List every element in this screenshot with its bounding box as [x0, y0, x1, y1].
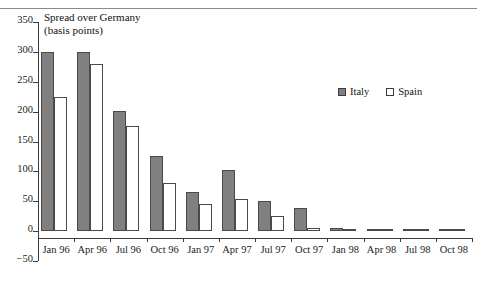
bar-spain-jan-98 [343, 229, 356, 231]
y-axis-tick-label: 250 [17, 74, 33, 85]
bar-italy-jan-96 [41, 52, 54, 231]
y-axis-tick: 250 [0, 82, 40, 83]
bar-group [400, 22, 436, 261]
legend-label-italy: Italy [350, 86, 369, 97]
y-axis-tick-mark [33, 261, 38, 262]
bar-italy-jan-97 [186, 192, 199, 231]
bar-italy-jul-98 [403, 229, 416, 231]
bar-italy-oct-97 [294, 208, 307, 231]
bar-spain-apr-97 [235, 199, 248, 231]
chart-page: Spread over Germany (basis points) 35030… [0, 0, 477, 282]
y-axis-tick-label: 200 [17, 104, 33, 115]
x-axis-tick-label: Jul 96 [110, 244, 146, 255]
bar-spain-jan-97 [199, 204, 212, 231]
top-divider [0, 8, 477, 9]
y-axis-tick-label: 300 [17, 44, 33, 55]
legend-swatch-italy-icon [338, 88, 346, 96]
x-axis-tick-mark [183, 238, 184, 242]
bar-spain-apr-98 [380, 229, 393, 231]
y-axis-tick: 300 [0, 52, 40, 53]
bar-italy-jan-98 [330, 228, 343, 231]
bar-group [255, 22, 291, 261]
plot-area [38, 22, 472, 261]
bar-group [436, 22, 472, 261]
bar-spain-jul-98 [416, 229, 429, 231]
y-axis-tick: 50 [0, 201, 40, 202]
x-axis-tick-mark [364, 238, 365, 242]
x-axis-tick-label: Apr 96 [74, 244, 110, 255]
bar-spain-apr-96 [90, 64, 103, 231]
y-axis-tick: 200 [0, 112, 40, 113]
bar-italy-jul-96 [113, 111, 126, 231]
y-axis-tick: 100 [0, 171, 40, 172]
bar-spain-jul-96 [126, 126, 139, 231]
x-axis-tick-label: Oct 97 [291, 244, 327, 255]
bar-group [38, 22, 74, 261]
y-axis-tick-label: −50 [17, 253, 33, 264]
bar-italy-jul-97 [258, 201, 271, 231]
legend-label-spain: Spain [398, 86, 422, 97]
x-axis-tick-mark [219, 238, 220, 242]
x-axis-tick-label: Apr 97 [219, 244, 255, 255]
bar-spain-oct-98 [452, 229, 465, 231]
x-axis-tick-mark [38, 238, 39, 242]
bar-group [183, 22, 219, 261]
bar-group [110, 22, 146, 261]
x-axis-tick-mark [400, 238, 401, 242]
bar-group [364, 22, 400, 261]
x-axis-tick-mark [436, 238, 437, 242]
y-axis-tick-label: 50 [23, 193, 34, 204]
x-axis-tick-label: Jan 97 [183, 244, 219, 255]
x-axis-tick-mark [147, 238, 148, 242]
x-axis-tick-label: Oct 98 [436, 244, 472, 255]
x-axis-tick-label: Jul 98 [400, 244, 436, 255]
bar-italy-apr-97 [222, 170, 235, 231]
bar-group [147, 22, 183, 261]
y-axis-tick: 0 [0, 231, 40, 232]
bar-group [74, 22, 110, 261]
bar-italy-apr-98 [367, 229, 380, 231]
x-axis-tick-mark [291, 238, 292, 242]
y-axis-tick: −50 [0, 261, 40, 262]
y-axis-tick: 150 [0, 142, 40, 143]
bar-group [219, 22, 255, 261]
y-axis-tick-label: 0 [28, 223, 33, 234]
x-axis-tick-label: Jan 98 [327, 244, 363, 255]
y-axis-tick: 350 [0, 22, 40, 23]
bar-italy-oct-98 [439, 229, 452, 231]
x-axis-tick-mark [74, 238, 75, 242]
y-axis-tick-label: 100 [17, 163, 33, 174]
x-axis-tick-label: Jul 97 [255, 244, 291, 255]
y-axis-tick-label: 350 [17, 14, 33, 25]
x-axis-tick-label: Oct 96 [147, 244, 183, 255]
bar-spain-oct-97 [307, 228, 320, 231]
legend-item-spain: Spain [386, 86, 422, 97]
legend-swatch-spain-icon [386, 88, 394, 96]
y-axis-tick-label: 150 [17, 134, 33, 145]
x-axis-tick-mark [472, 238, 473, 242]
bar-spain-jan-96 [54, 97, 67, 231]
bar-spain-oct-96 [163, 183, 176, 231]
x-axis-tick-label: Apr 98 [364, 244, 400, 255]
x-axis-tick-label: Jan 96 [38, 244, 74, 255]
bar-italy-apr-96 [77, 52, 90, 231]
legend-item-italy: Italy [338, 86, 369, 97]
bar-group [291, 22, 327, 261]
bar-group [327, 22, 363, 261]
bar-italy-oct-96 [150, 156, 163, 231]
bar-spain-jul-97 [271, 216, 284, 231]
x-axis-tick-mark [327, 238, 328, 242]
chart-legend: Italy Spain [338, 86, 422, 97]
x-axis-tick-mark [110, 238, 111, 242]
x-axis-tick-mark [255, 238, 256, 242]
